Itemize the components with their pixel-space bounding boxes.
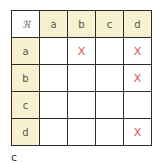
matrix-row-a: a X X bbox=[12, 38, 152, 65]
header-row: ℜ a b c d bbox=[12, 11, 152, 38]
cell-a-a bbox=[40, 38, 68, 65]
cell-b-a bbox=[40, 65, 68, 92]
matrix-row-d: d X bbox=[12, 119, 152, 146]
row-header-c: c bbox=[12, 92, 40, 119]
matrix-row-c: c bbox=[12, 92, 152, 119]
column-header-b: b bbox=[68, 11, 96, 38]
cell-d-d: X bbox=[124, 119, 152, 146]
cell-b-c bbox=[96, 65, 124, 92]
cell-b-d: X bbox=[124, 65, 152, 92]
relation-matrix: ℜ a b c d a X X b X c d X bbox=[11, 10, 152, 146]
cell-c-d bbox=[124, 92, 152, 119]
cell-d-b bbox=[68, 119, 96, 146]
matrix-row-b: b X bbox=[12, 65, 152, 92]
row-header-a: a bbox=[12, 38, 40, 65]
row-header-b: b bbox=[12, 65, 40, 92]
cell-a-c bbox=[96, 38, 124, 65]
cell-b-b bbox=[68, 65, 96, 92]
column-header-d: d bbox=[124, 11, 152, 38]
cell-c-b bbox=[68, 92, 96, 119]
cell-a-d: X bbox=[124, 38, 152, 65]
cell-c-a bbox=[40, 92, 68, 119]
relation-symbol: ℜ bbox=[12, 11, 40, 38]
figure-caption: c bbox=[11, 151, 17, 164]
column-header-c: c bbox=[96, 11, 124, 38]
cell-d-a bbox=[40, 119, 68, 146]
row-header-d: d bbox=[12, 119, 40, 146]
cell-c-c bbox=[96, 92, 124, 119]
cell-d-c bbox=[96, 119, 124, 146]
cell-a-b: X bbox=[68, 38, 96, 65]
column-header-a: a bbox=[40, 11, 68, 38]
